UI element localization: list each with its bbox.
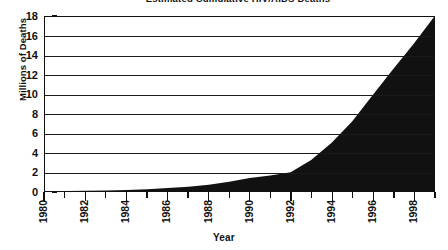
y-tick-label: 14: [26, 50, 38, 60]
gridline: [45, 153, 434, 154]
chart-title: Estimated Cumulative HIV/AIDS Deaths: [108, 0, 368, 4]
x-tick-label: 1996: [367, 200, 377, 223]
gridline: [45, 36, 434, 37]
y-tick-label: 18: [26, 11, 38, 21]
gridline: [45, 95, 434, 96]
x-tick-mark: [64, 192, 65, 198]
gridline: [45, 75, 434, 76]
x-tick-mark: [105, 192, 106, 198]
x-tick-label: 1984: [120, 200, 130, 223]
y-tick-label: 4: [32, 148, 38, 158]
x-tick-label: 1986: [161, 200, 171, 223]
x-tick-mark: [187, 192, 188, 198]
x-tick-label: 1990: [244, 200, 254, 223]
chart-title-clipped-region: Estimated Cumulative HIV/AIDS Deaths: [0, 0, 448, 7]
x-tick-mark: [270, 192, 271, 198]
gridline: [45, 114, 434, 115]
gridline: [45, 56, 434, 57]
y-axis-tick-labels: 181614121086420: [14, 16, 38, 192]
gridline: [45, 173, 434, 174]
x-tick-label: 1992: [285, 200, 295, 223]
y-tick-label: 8: [32, 109, 38, 119]
y-tick-label: 16: [26, 31, 38, 41]
x-axis-title: Year: [0, 232, 448, 243]
y-tick-label: 2: [32, 167, 38, 177]
x-axis-tick-labels: 1980198219841986198819901992199419961998: [44, 200, 435, 232]
x-tick-label: 1980: [38, 200, 48, 223]
plot-area: [44, 16, 435, 192]
x-tick-mark: [393, 192, 394, 198]
x-tick-mark: [434, 192, 435, 198]
x-tick-label: 1988: [203, 200, 213, 223]
area-fill-path: [45, 17, 434, 191]
x-tick-mark: [311, 192, 312, 198]
y-tick-label: 6: [32, 128, 38, 138]
y-tick-label: 0: [32, 187, 38, 197]
x-tick-mark: [146, 192, 147, 198]
area-series-hiv-deaths: [45, 17, 434, 191]
x-tick-mark: [229, 192, 230, 198]
chart-figure: Estimated Cumulative HIV/AIDS Deaths Mil…: [0, 0, 448, 250]
x-tick-label: 1998: [408, 200, 418, 223]
x-tick-label: 1994: [326, 200, 336, 223]
gridline: [45, 134, 434, 135]
x-tick-mark: [352, 192, 353, 198]
y-tick-label: 12: [26, 70, 38, 80]
y-tick-label: 10: [26, 89, 38, 99]
x-tick-label: 1982: [79, 200, 89, 223]
